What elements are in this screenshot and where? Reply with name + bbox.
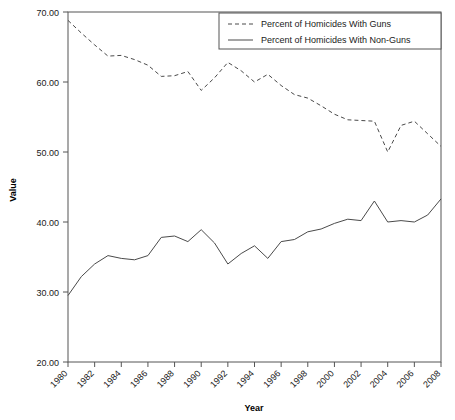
y-tick-label: 70.00 [36,8,59,18]
legend-label-non-guns: Percent of Homicides With Non-Guns [261,35,411,45]
y-tick-label: 20.00 [36,358,59,368]
y-tick-label: 50.00 [36,148,59,158]
x-tick-label: 2000 [315,368,336,389]
x-tick-label: 2002 [341,368,362,389]
y-tick-label: 40.00 [36,218,59,228]
x-tick-label: 1992 [208,368,229,389]
legend: Percent of Homicides With Guns Percent o… [219,13,441,49]
x-tick-label: 1982 [75,368,96,389]
x-tick-label: 1990 [181,368,202,389]
x-tick-label: 1998 [288,368,309,389]
y-axis-ticks: 20.0030.0040.0050.0060.0070.00 [36,8,68,368]
x-tick-label: 1996 [261,368,282,389]
chart-container: 20.0030.0040.0050.0060.0070.00 198019821… [0,0,455,420]
x-tick-label: 2004 [368,368,389,389]
y-tick-label: 30.00 [36,288,59,298]
x-tick-label: 2006 [395,368,416,389]
x-tick-label: 2008 [421,368,442,389]
data-series-group [68,20,441,295]
x-axis-title: Year [244,403,264,413]
plot-frame [68,12,441,362]
line-chart: 20.0030.0040.0050.0060.0070.00 198019821… [0,0,455,420]
legend-label-guns: Percent of Homicides With Guns [261,19,392,29]
x-tick-label: 1994 [235,368,256,389]
x-axis-ticks: 1980198219841986198819901992199419961998… [48,362,442,390]
series-line-1 [68,199,441,296]
x-tick-label: 1980 [48,368,69,389]
y-axis-title: Value [8,178,18,202]
y-tick-label: 60.00 [36,78,59,88]
x-tick-label: 1986 [128,368,149,389]
x-tick-label: 1988 [155,368,176,389]
x-tick-label: 1984 [101,368,122,389]
